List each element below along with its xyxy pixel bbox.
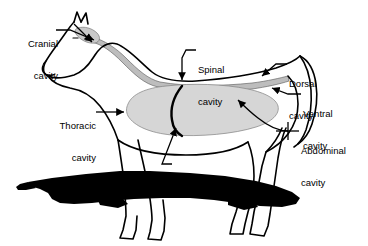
- label-diaphragm-line1: Diaphragm: [175, 180, 245, 191]
- label-cranial-cavity: Cranial cavity: [0, 18, 58, 102]
- label-diaphragm: Diaphragm: [175, 159, 245, 212]
- label-spinal-cavity-line2: cavity: [198, 97, 258, 108]
- label-ventral-cavity-line1: Ventral: [303, 109, 365, 120]
- label-thoracic-cavity-line1: Thoracic: [38, 121, 96, 132]
- label-thoracic-cavity: Thoracic cavity: [38, 100, 96, 184]
- label-abdominal-cavity: Abdominal cavity: [301, 125, 367, 209]
- label-spinal-cavity-line1: Spinal: [198, 65, 258, 76]
- horse-cavities-diagram: Cranial cavity Thoracic cavity Spinal ca…: [0, 0, 368, 246]
- label-thoracic-cavity-line2: cavity: [38, 153, 96, 164]
- label-spinal-cavity: Spinal cavity: [198, 44, 258, 128]
- label-cranial-cavity-line2: cavity: [0, 71, 58, 82]
- label-abdominal-cavity-line2: cavity: [301, 178, 367, 189]
- leader-spinal: [182, 50, 196, 80]
- label-abdominal-cavity-line1: Abdominal: [301, 146, 367, 157]
- label-cranial-cavity-line1: Cranial: [0, 39, 58, 50]
- cranial-cavity-patch: [75, 27, 100, 43]
